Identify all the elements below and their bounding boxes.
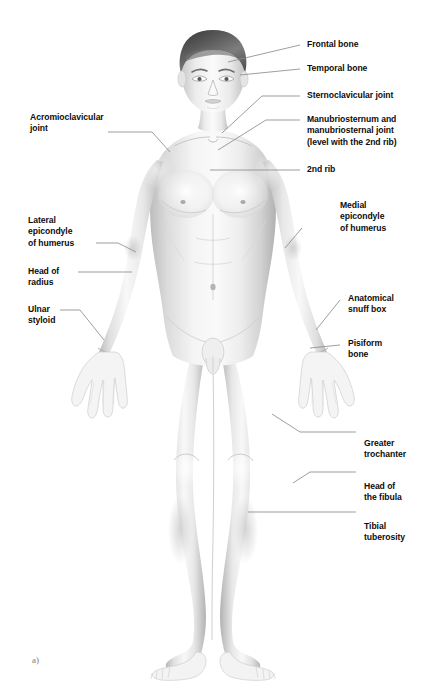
label-manubriosternum: Manubriosternum and manubriosternal join…: [307, 114, 397, 148]
label-tibial-tuberosity: Tibial tuberosity: [364, 521, 405, 544]
label-medial-epicondyle: Medial epicondyle of humerus: [340, 200, 386, 234]
leader-ulnar-styloid: [60, 310, 104, 340]
leader-acromioclavicular-joint: [108, 132, 170, 152]
label-greater-trochanter: Greater trochanter: [364, 438, 406, 461]
leader-greater-trochanter: [272, 414, 356, 432]
leader-temporal-bone: [240, 69, 300, 75]
label-acromioclavicular-joint: Acromioclavicular joint: [30, 112, 104, 135]
label-sternoclavicular-joint: Sternoclavicular joint: [307, 90, 393, 101]
label-lateral-epicondyle: Lateral epicondyle of humerus: [28, 215, 74, 249]
anatomy-figure-panel: Frontal bone Temporal bone Sternoclavicu…: [0, 0, 447, 696]
leader-manubriosternum: [218, 120, 300, 150]
leader-sternoclavicular-joint: [222, 96, 300, 133]
label-head-of-fibula: Head of the fibula: [364, 481, 402, 504]
label-anatomical-snuff-box: Anatomical snuff box: [348, 293, 394, 316]
label-ulnar-styloid: Ulnar styloid: [28, 304, 55, 327]
leader-lateral-epicondyle: [96, 243, 136, 252]
leader-head-of-fibula: [293, 472, 356, 483]
label-frontal-bone: Frontal bone: [307, 39, 358, 50]
figure-caption: a): [32, 655, 39, 665]
label-2nd-rib: 2nd rib: [307, 164, 335, 175]
leader-pisiform-bone: [310, 345, 340, 348]
leader-medial-epicondyle: [285, 228, 302, 248]
leader-anatomical-snuff-box: [316, 300, 340, 330]
label-temporal-bone: Temporal bone: [307, 63, 367, 74]
label-head-of-radius: Head of radius: [28, 266, 59, 289]
leader-frontal-bone: [228, 45, 300, 62]
label-pisiform-bone: Pisiform bone: [348, 338, 382, 361]
